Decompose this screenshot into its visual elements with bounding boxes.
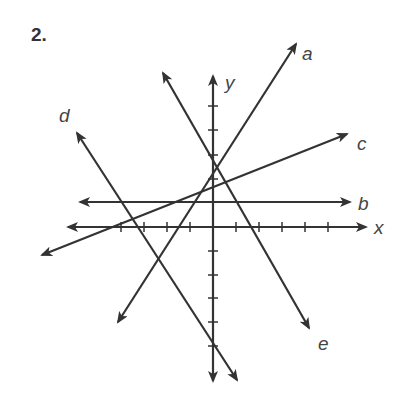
line-c: c: [42, 133, 367, 255]
line-a: a: [118, 43, 313, 322]
x-axis-label: x: [373, 217, 385, 238]
y-axis-label: y: [223, 72, 236, 93]
x-axis: x: [68, 217, 385, 238]
line-b-label: b: [358, 193, 369, 214]
line-e-label: e: [318, 333, 329, 354]
line-d-label: d: [59, 105, 71, 126]
line-c-label: c: [357, 133, 367, 154]
line-a-label: a: [302, 43, 313, 64]
coordinate-diagram: x y a b c d e: [0, 0, 402, 395]
line-d: d: [59, 105, 237, 380]
